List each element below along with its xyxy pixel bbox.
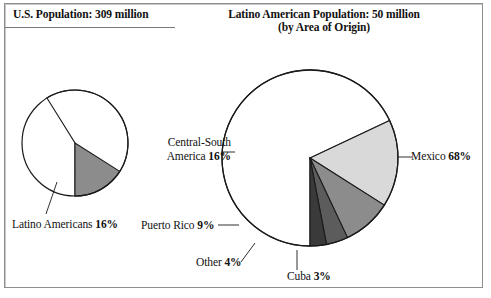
label-cuba-text: Cuba: [287, 270, 314, 282]
label-mexico: Mexico 68%: [411, 150, 471, 164]
leader-line-other: [241, 243, 255, 262]
label-latino-americans-text: Latino Americans: [12, 218, 95, 230]
label-central-south-america-line1: Central-South: [168, 136, 231, 148]
label-puerto-rico-text: Puerto Rico: [141, 219, 197, 231]
figure-container: U.S. Population: 309 million Latino Amer…: [0, 0, 491, 298]
label-other-text: Other: [196, 256, 224, 268]
label-central-south-america-line2: America: [167, 150, 209, 162]
label-mexico-text: Mexico: [411, 150, 448, 162]
label-latino-americans-pct: 16%: [95, 218, 118, 230]
label-central-south-america: Central-South America 16%: [143, 136, 231, 163]
label-puerto-rico: Puerto Rico 9%: [141, 219, 214, 233]
pie-charts-svg: [0, 0, 491, 298]
label-mexico-pct: 68%: [448, 150, 471, 162]
label-cuba: Cuba 3%: [287, 270, 331, 284]
label-other: Other 4%: [196, 256, 242, 270]
label-other-pct: 4%: [224, 256, 241, 268]
label-central-south-america-pct: 16%: [208, 150, 231, 162]
leader-line-latino-americans: [46, 182, 57, 214]
label-latino-americans: Latino Americans 16%: [12, 218, 118, 232]
label-puerto-rico-pct: 9%: [197, 219, 214, 231]
label-cuba-pct: 3%: [314, 270, 331, 282]
